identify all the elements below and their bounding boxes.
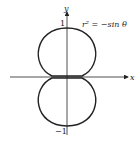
y-axis-label: y [63,4,69,13]
equation-label: r² = −sin θ [82,20,127,29]
polar-graph: y x 1 −1 r² = −sin θ [0,0,140,144]
tick-bottom: −1 [55,127,67,136]
tick-top: 1 [60,19,65,28]
x-axis-label: x [130,73,135,82]
